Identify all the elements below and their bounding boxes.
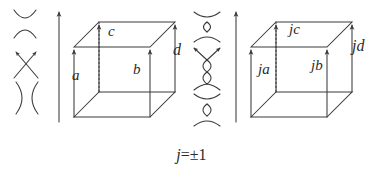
caption-formula: j=±1 [0,146,383,164]
vertical-smoothing-icon [14,10,36,38]
label-a: a [72,68,80,83]
oriented-crossing-icon [14,52,38,78]
label-jb: jb [311,58,323,73]
rotated-horizontal-smoothing-icon [194,94,220,126]
label-jc: jc [289,22,300,37]
horizontal-smoothing-icon [16,82,38,114]
label-b: b [133,62,141,77]
figure-root: a b c d ja jb jc jd j=±1 [0,0,383,177]
label-ja: ja [258,62,270,77]
label-d: d [173,42,181,58]
label-jd: jd [352,38,364,54]
rotated-oriented-crossing-icon [194,48,220,90]
label-c: c [108,24,115,39]
rotated-vertical-smoothing-icon [194,12,220,42]
formula-rest: =±1 [181,146,207,163]
